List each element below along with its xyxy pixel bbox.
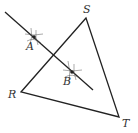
label-r: R <box>7 88 16 101</box>
label-s: S <box>83 3 91 16</box>
point-a <box>32 35 36 39</box>
geometry-diagram: S R T A B <box>0 0 138 133</box>
label-b: B <box>62 75 71 88</box>
bisector-line <box>5 12 93 90</box>
label-a: A <box>25 40 34 53</box>
label-t: T <box>122 117 131 130</box>
point-b <box>70 70 74 74</box>
